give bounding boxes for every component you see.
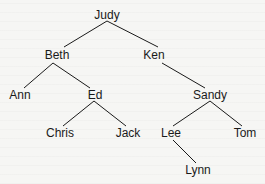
edge-beth-ed <box>53 63 90 88</box>
node-beth: Beth <box>45 49 70 61</box>
edge-ed-jack <box>94 101 126 126</box>
node-tom: Tom <box>234 127 257 139</box>
node-ken: Ken <box>143 49 164 61</box>
node-judy: Judy <box>94 9 119 21</box>
edge-beth-ann <box>24 63 53 88</box>
node-sandy: Sandy <box>193 89 227 101</box>
node-chris: Chris <box>46 127 74 139</box>
edge-sandy-lee <box>173 101 210 126</box>
edge-ed-chris <box>63 101 94 126</box>
node-lee: Lee <box>161 127 181 139</box>
edge-ken-sandy <box>162 63 205 88</box>
node-jack: Jack <box>116 127 141 139</box>
tree-diagram: JudyBethKenAnnEdSandyChrisJackLeeTomLynn <box>0 0 265 184</box>
node-lynn: Lynn <box>185 164 211 176</box>
edge-judy-beth <box>64 21 107 47</box>
edge-judy-ken <box>107 21 158 47</box>
node-ann: Ann <box>9 89 30 101</box>
edge-sandy-tom <box>210 101 242 126</box>
node-ed: Ed <box>88 89 103 101</box>
edge-lee-lynn <box>173 140 196 163</box>
